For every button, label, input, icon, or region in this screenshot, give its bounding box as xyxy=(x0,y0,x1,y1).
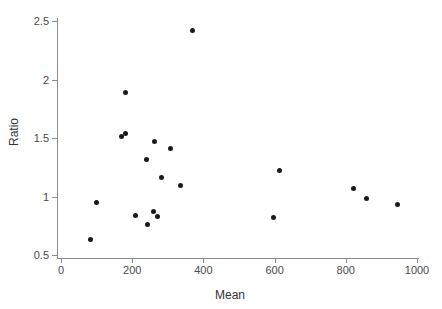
x-tick-mark xyxy=(132,258,133,263)
y-tick-mark xyxy=(52,138,57,139)
x-tick-mark xyxy=(203,258,204,263)
data-point xyxy=(351,186,356,191)
y-tick-label: 1 xyxy=(0,191,49,202)
data-point xyxy=(133,213,138,218)
x-tick-label: 600 xyxy=(265,265,283,276)
data-point xyxy=(395,202,400,207)
data-point xyxy=(277,168,282,173)
x-tick-label: 400 xyxy=(194,265,212,276)
y-tick-label: 0.5 xyxy=(0,250,49,261)
y-tick-mark xyxy=(52,21,57,22)
data-point xyxy=(178,183,183,188)
x-tick-label: 0 xyxy=(58,265,64,276)
data-point xyxy=(190,28,195,33)
y-axis-title: Ratio xyxy=(7,102,21,162)
scatter-plot-figure: 0.511.522.5 02004006008001000 Ratio Mean xyxy=(0,0,442,309)
x-tick-mark xyxy=(275,258,276,263)
x-tick-label: 800 xyxy=(337,265,355,276)
data-point xyxy=(151,209,156,214)
data-point xyxy=(144,157,149,162)
x-tick-mark xyxy=(417,258,418,263)
y-tick-mark xyxy=(52,80,57,81)
data-point xyxy=(159,175,164,180)
x-axis-title-text: Mean xyxy=(215,288,245,302)
data-point xyxy=(123,131,128,136)
data-point xyxy=(88,237,93,242)
data-point xyxy=(168,146,173,151)
data-point xyxy=(364,196,369,201)
y-tick-mark xyxy=(52,197,57,198)
x-tick-label: 200 xyxy=(123,265,141,276)
data-point xyxy=(155,214,160,219)
data-point xyxy=(123,90,128,95)
x-tick-label: 1000 xyxy=(405,265,429,276)
y-tick-label: 2.5 xyxy=(0,16,49,27)
x-tick-mark xyxy=(61,258,62,263)
data-point xyxy=(145,222,150,227)
x-tick-mark xyxy=(346,258,347,263)
plot-area: 0.511.522.5 02004006008001000 Ratio Mean xyxy=(0,0,442,309)
data-point xyxy=(271,215,276,220)
x-axis-title: Mean xyxy=(0,288,442,302)
y-tick-label: 2 xyxy=(0,74,49,85)
data-point xyxy=(94,200,99,205)
y-tick-mark xyxy=(52,255,57,256)
x-axis-line xyxy=(57,258,419,259)
y-axis-line xyxy=(57,18,58,258)
data-point xyxy=(152,139,157,144)
